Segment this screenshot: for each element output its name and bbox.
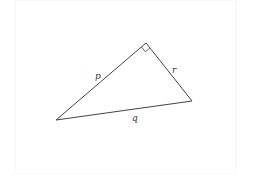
side-label-p: p (95, 71, 101, 81)
right-angle-marker (141, 47, 150, 52)
triangle (56, 43, 192, 120)
triangle-diagram: p r q (0, 0, 254, 178)
side-label-r: r (172, 65, 177, 75)
side-label-q: q (132, 113, 138, 123)
